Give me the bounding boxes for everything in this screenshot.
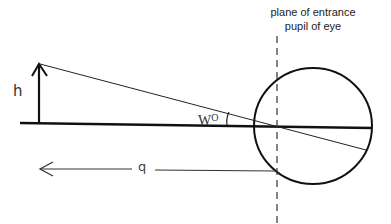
angle-degree: O xyxy=(211,112,218,123)
distance-line-right xyxy=(155,170,276,171)
distance-label: q xyxy=(138,160,146,173)
caption-line-1: plane of entrance xyxy=(238,7,388,18)
chief-ray xyxy=(40,64,366,150)
angle-arc xyxy=(227,112,229,125)
optical-axis xyxy=(20,123,372,128)
angle-label: WO xyxy=(198,114,218,128)
caption-line-2: pupil of eye xyxy=(238,21,388,32)
eye-geometry-diagram xyxy=(0,0,391,224)
height-label: h xyxy=(13,84,23,99)
angle-symbol: W xyxy=(198,113,211,128)
